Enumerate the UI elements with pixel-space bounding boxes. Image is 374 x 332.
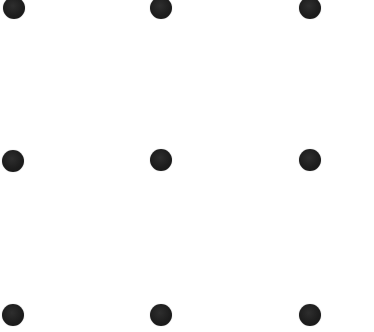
grid-dot-r0-c2 — [299, 0, 321, 19]
dot-grid-canvas — [0, 0, 374, 332]
grid-dot-r0-c0 — [3, 0, 25, 19]
grid-dot-r2-c2 — [299, 304, 321, 326]
grid-dot-r1-c0 — [2, 150, 24, 172]
grid-dot-r1-c2 — [299, 149, 321, 171]
grid-dot-r1-c1 — [150, 149, 172, 171]
grid-dot-r2-c0 — [2, 304, 24, 326]
grid-dot-r0-c1 — [150, 0, 172, 19]
grid-dot-r2-c1 — [150, 304, 172, 326]
